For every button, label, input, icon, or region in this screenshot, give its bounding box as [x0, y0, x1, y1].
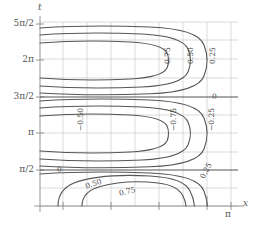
x-axis-name: x [243, 198, 248, 208]
contour-label-upper-025: 0.25 [208, 47, 217, 64]
contour-label-mid-minus-050: −0.50 [76, 108, 85, 131]
x-tick-label-pi: π [225, 209, 231, 219]
contour-label-mid-minus-025: −0.25 [207, 108, 216, 131]
y-tick-label-pi-2: π/2 [2, 164, 34, 174]
contour-label-upper-075: 0.75 [163, 47, 172, 64]
contour-path-minus-0.25 [40, 99, 207, 168]
contour-label-zero-lower: 0 [57, 165, 62, 174]
contour-path-minus-0.75 [40, 114, 169, 153]
contour-label-mid-minus-075: −0.75 [169, 108, 178, 131]
y-axis-name: t [38, 2, 42, 12]
y-tick-label-5pi-2: 5π/2 [2, 18, 34, 28]
y-tick-label-2pi: 2π [2, 54, 34, 64]
contour-group-upper-positive [40, 26, 207, 95]
y-tick-label-3pi-2: 3π/2 [2, 91, 34, 101]
contour-label-zero-upper: 0 [212, 92, 217, 101]
contour-label-upper-050: 0.50 [186, 47, 195, 64]
y-tick-label-pi: π [2, 127, 34, 137]
contour-path-0.75 [40, 41, 169, 80]
contour-path-0.25 [40, 26, 207, 95]
contour-group-middle-negative [40, 99, 207, 168]
contour-plot-figure: 5π/2 2π 3π/2 π π/2 π t x 0.75 0.50 0.25 … [0, 0, 254, 226]
